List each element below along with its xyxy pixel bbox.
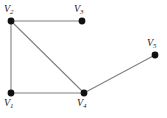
vertex-label-subscript: 2 — [10, 8, 14, 16]
graph-edge-v4-v5 — [84, 55, 155, 93]
vertex-label-subscript: 4 — [83, 102, 87, 110]
vertex-label-v3: V3 — [74, 4, 84, 15]
vertex-label-subscript: 5 — [153, 42, 157, 50]
graph-edge-v2-v4 — [11, 21, 84, 93]
graph-vertex-v3 — [79, 18, 86, 25]
graph-vertex-v5 — [152, 52, 159, 59]
vertex-label-v5: V5 — [147, 38, 157, 49]
vertex-label-subscript: 3 — [80, 8, 84, 16]
vertex-label-v1: V1 — [4, 98, 14, 109]
edge-layer — [11, 21, 155, 93]
graph-figure: V1V2V3V4V5 — [0, 0, 167, 118]
graph-vertex-v1 — [8, 90, 15, 97]
graph-vertex-v4 — [81, 90, 88, 97]
graph-vertex-v2 — [8, 18, 15, 25]
vertex-label-subscript: 1 — [10, 102, 14, 110]
vertex-layer — [8, 18, 159, 97]
vertex-label-v4: V4 — [77, 98, 87, 109]
vertex-label-v2: V2 — [4, 4, 14, 15]
